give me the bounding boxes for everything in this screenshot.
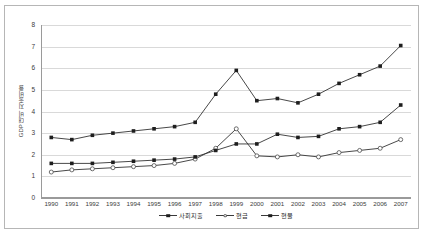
data-point: [317, 155, 321, 159]
data-point: [378, 146, 382, 150]
x-tick-label: 1995: [147, 201, 161, 207]
y-tick-label: 5: [31, 87, 35, 94]
x-tick-label: 2000: [250, 201, 264, 207]
data-point: [70, 168, 74, 172]
y-tick-label: 0: [31, 195, 35, 202]
x-tick-label: 1992: [85, 201, 99, 207]
data-point: [111, 161, 115, 165]
data-point: [276, 97, 280, 101]
data-point: [255, 142, 259, 146]
chart-screenshot: GDP 대비 지출비율 012345678 199019911992199319…: [0, 0, 424, 235]
data-point: [70, 138, 74, 142]
data-point: [337, 127, 341, 131]
data-point: [132, 129, 136, 133]
y-tick-label: 2: [31, 152, 35, 159]
plot-area: 1990199119921993199419951996199719981999…: [41, 25, 411, 198]
data-point: [173, 125, 177, 129]
data-point: [317, 135, 321, 139]
legend-line-icon: [261, 215, 279, 216]
data-point: [399, 138, 403, 142]
series-1: [49, 44, 402, 142]
x-tick-label: 1997: [188, 201, 202, 207]
data-point: [378, 64, 382, 68]
data-point: [91, 133, 95, 137]
x-tick-label: 2002: [291, 201, 305, 207]
chart-legend: 사회지출현금현물: [41, 211, 411, 220]
x-tick-label: 2004: [332, 201, 346, 207]
data-point: [255, 154, 259, 158]
data-point: [234, 127, 238, 131]
y-tick-label: 3: [31, 130, 35, 137]
data-point: [91, 162, 95, 166]
x-tick-label: 1994: [127, 201, 141, 207]
legend-marker-icon: [166, 214, 170, 218]
x-tick-label: 1990: [44, 201, 58, 207]
legend-line-icon: [159, 215, 177, 216]
legend-label: 현물: [281, 211, 293, 220]
y-tick-label: 4: [31, 108, 35, 115]
data-point: [152, 164, 156, 168]
data-point: [193, 155, 197, 159]
data-point: [173, 161, 177, 165]
y-tick-label: 6: [31, 65, 35, 72]
data-point: [234, 69, 238, 73]
data-point: [296, 101, 300, 105]
data-point: [234, 142, 238, 146]
gridline: [41, 198, 411, 199]
y-axis-tick-labels: 012345678: [5, 25, 39, 198]
data-point: [358, 73, 362, 77]
legend-item-2[interactable]: 현금: [216, 211, 248, 220]
data-point: [132, 159, 136, 163]
data-point: [49, 136, 53, 140]
data-point: [378, 121, 382, 125]
data-point: [70, 162, 74, 166]
data-point: [296, 136, 300, 140]
x-tick-label: 1998: [209, 201, 223, 207]
data-point: [173, 157, 177, 161]
y-tick-label: 7: [31, 43, 35, 50]
data-point: [111, 131, 115, 135]
data-point: [337, 82, 341, 86]
x-tick-label: 2007: [394, 201, 408, 207]
legend-line-icon: [216, 215, 234, 216]
data-point: [152, 158, 156, 162]
data-point: [152, 127, 156, 131]
x-tick-label: 2001: [270, 201, 284, 207]
data-point: [49, 170, 53, 174]
chart-frame: GDP 대비 지출비율 012345678 199019911992199319…: [4, 5, 419, 229]
x-tick-label: 1999: [229, 201, 243, 207]
legend-label: 사회지출: [179, 211, 203, 220]
series-line: [51, 46, 400, 140]
data-point: [296, 153, 300, 157]
data-point: [337, 151, 341, 155]
x-tick-label: 2003: [312, 201, 326, 207]
data-point: [49, 162, 53, 166]
x-tick-label: 1991: [65, 201, 79, 207]
legend-marker-icon: [223, 214, 227, 218]
legend-label: 현금: [236, 211, 248, 220]
legend-marker-icon: [268, 214, 272, 218]
series-line: [51, 129, 400, 172]
x-tick-label: 2006: [373, 201, 387, 207]
data-point: [358, 125, 362, 129]
data-point: [132, 165, 136, 169]
x-tick-label: 2005: [353, 201, 367, 207]
legend-item-3[interactable]: 현물: [261, 211, 293, 220]
data-point: [276, 132, 280, 136]
y-tick-label: 8: [31, 22, 35, 29]
data-point: [399, 103, 403, 107]
data-point: [358, 148, 362, 152]
data-point: [111, 166, 115, 170]
data-point: [255, 99, 259, 103]
data-point: [214, 149, 218, 153]
series-container: [41, 25, 411, 198]
data-point: [275, 155, 279, 159]
legend-item-1[interactable]: 사회지출: [159, 211, 203, 220]
data-point: [90, 167, 94, 171]
y-tick-label: 1: [31, 173, 35, 180]
x-tick-label: 1996: [168, 201, 182, 207]
data-point: [399, 44, 403, 48]
data-point: [193, 121, 197, 125]
data-point: [317, 92, 321, 96]
data-point: [214, 92, 218, 96]
